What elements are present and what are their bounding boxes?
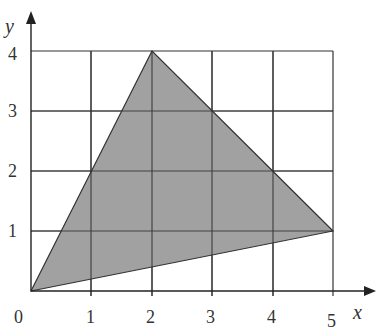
y-tick-4: 4 — [8, 44, 17, 64]
x-tick-0: 0 — [14, 307, 23, 327]
x-axis-arrow-icon — [364, 286, 376, 296]
y-tick-1: 1 — [8, 221, 17, 241]
y-axis-arrow-icon — [26, 11, 36, 24]
x-tick-4: 4 — [267, 307, 276, 327]
y-axis-label: y — [3, 15, 14, 38]
x-tick-2: 2 — [146, 307, 155, 327]
x-axis-label: x — [352, 301, 362, 323]
coordinate-grid-figure: 0 1 2 3 4 5 1 2 3 4 x y — [0, 0, 385, 334]
x-tick-3: 3 — [206, 307, 215, 327]
x-tick-5: 5 — [327, 311, 336, 331]
y-tick-3: 3 — [8, 101, 17, 121]
y-tick-2: 2 — [8, 161, 17, 181]
x-tick-1: 1 — [86, 307, 95, 327]
